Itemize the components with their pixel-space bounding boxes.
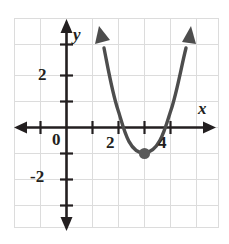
y-axis-name-label: y [73, 26, 81, 43]
x-axis-arrow-left [14, 122, 27, 134]
parabola-arrow-right [182, 26, 196, 44]
y-axis-arrow-up [61, 19, 73, 33]
x-axis-tick-label-2: 2 [106, 134, 115, 151]
x-axis-name-label: x [198, 100, 207, 117]
grid-horizontal-lines [14, 19, 218, 228]
coordinate-plane-svg [0, 0, 229, 244]
origin-label: 0 [52, 131, 61, 148]
y-axis [61, 19, 73, 231]
vertex-point-marker [139, 148, 150, 159]
graph-figure: 2 -2 0 2 4 x y [0, 0, 229, 244]
grid-vertical-lines [15, 18, 219, 228]
y-axis-tick-label-2: 2 [38, 66, 47, 83]
x-axis-arrow-right [203, 122, 216, 134]
y-axis-arrow-down [61, 217, 73, 231]
y-axis-tick-label-negative-2: -2 [30, 168, 44, 185]
x-axis [14, 122, 216, 134]
parabola-arrow-left [95, 26, 110, 44]
x-axis-tick-label-4: 4 [158, 134, 167, 151]
